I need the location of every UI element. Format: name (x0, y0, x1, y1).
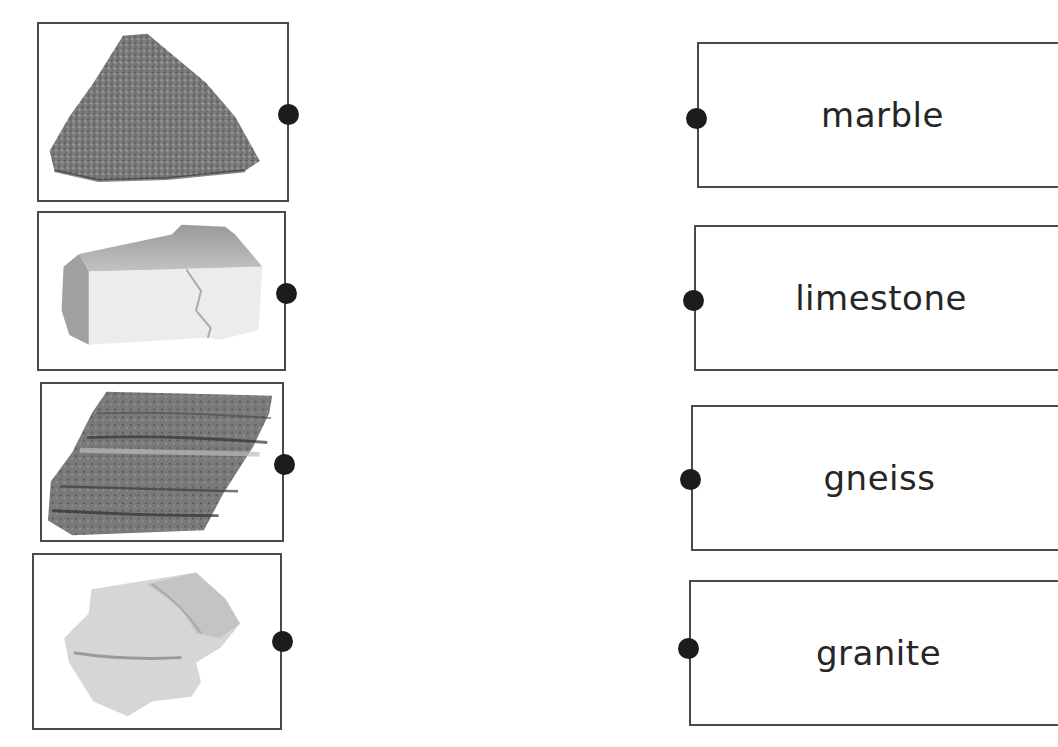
connector-dot-left-3[interactable] (274, 454, 295, 475)
word-box-1: marble (697, 42, 1058, 188)
connector-dot-left-2[interactable] (276, 283, 297, 304)
connector-dot-right-1[interactable] (686, 108, 707, 129)
rock-image-box-4 (32, 553, 282, 730)
rock-image-box-2 (37, 211, 286, 371)
banded-rock-image (42, 384, 282, 540)
word-label: limestone (795, 278, 967, 318)
word-box-3: gneiss (691, 405, 1058, 551)
word-box-2: limestone (694, 225, 1058, 371)
white-block-rock-image (39, 213, 284, 369)
rock-image-box-3 (40, 382, 284, 542)
connector-dot-right-4[interactable] (678, 638, 699, 659)
rock-image-box-1 (37, 22, 289, 202)
speckled-rock-image (39, 24, 287, 200)
connector-dot-right-3[interactable] (680, 469, 701, 490)
word-label: gneiss (824, 458, 936, 498)
connector-dot-right-2[interactable] (683, 290, 704, 311)
pale-rough-rock-image (34, 555, 280, 728)
word-label: marble (821, 95, 944, 135)
word-box-4: granite (689, 580, 1058, 726)
connector-dot-left-1[interactable] (278, 104, 299, 125)
word-label: granite (816, 633, 941, 673)
connector-dot-left-4[interactable] (272, 631, 293, 652)
